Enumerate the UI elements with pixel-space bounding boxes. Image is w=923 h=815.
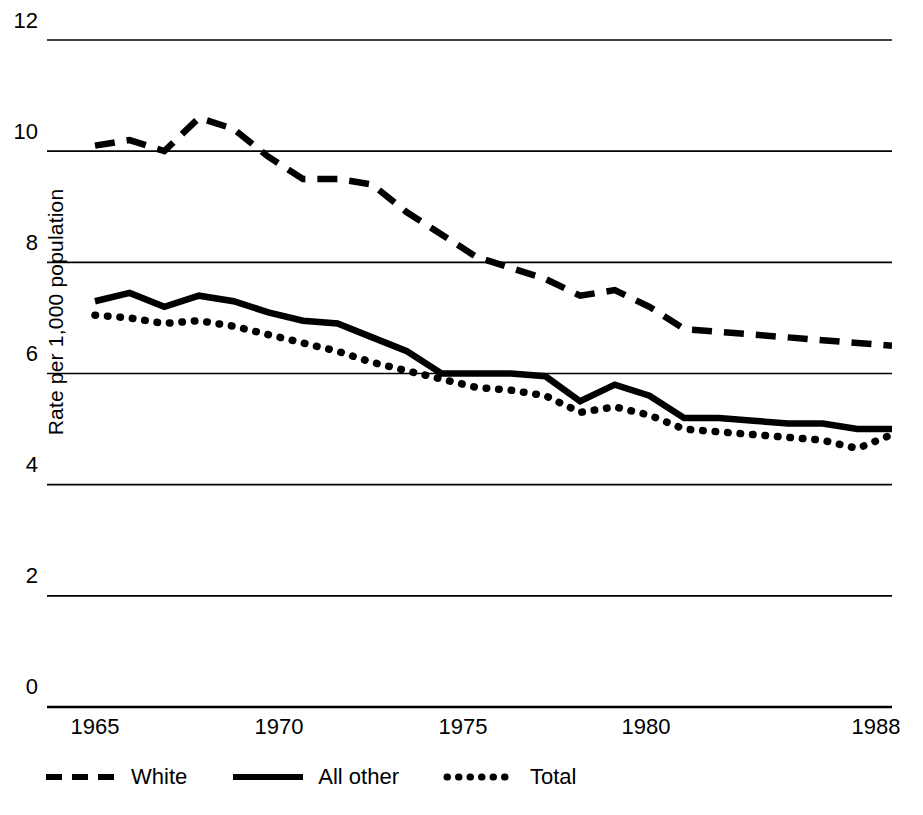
y-tick-label-4: 4 [2,454,38,476]
legend-swatch-dotted-icon [443,769,517,785]
series-line-all-other [95,293,892,429]
series-line-white [95,118,892,346]
legend-label-all-other: All other [318,766,399,788]
legend-swatch-dashed-icon [44,769,118,785]
legend-swatch-solid-icon [231,769,305,785]
legend-item-white: White [44,766,187,788]
legend-label-total: Total [530,766,576,788]
y-tick-label-2: 2 [2,565,38,587]
x-tick-label-1975: 1975 [423,716,503,738]
legend-item-all-other: All other [231,766,399,788]
legend-label-white: White [131,766,187,788]
x-tick-label-1965: 1965 [55,716,135,738]
data-series-layer [95,118,892,449]
plot-area [47,0,892,710]
x-tick-label-1988: 1988 [836,716,916,738]
y-tick-label-0: 0 [2,676,38,698]
y-tick-label-10: 10 [2,121,38,143]
legend: White All other Total [44,760,576,794]
chart-figure: Rate per 1,000 population 12 10 8 6 4 2 … [0,0,923,815]
y-tick-label-6: 6 [2,343,38,365]
y-tick-label-8: 8 [2,232,38,254]
x-tick-label-1970: 1970 [239,716,319,738]
x-tick-label-1980: 1980 [606,716,686,738]
legend-item-total: Total [443,766,576,788]
y-tick-label-12: 12 [2,10,38,32]
